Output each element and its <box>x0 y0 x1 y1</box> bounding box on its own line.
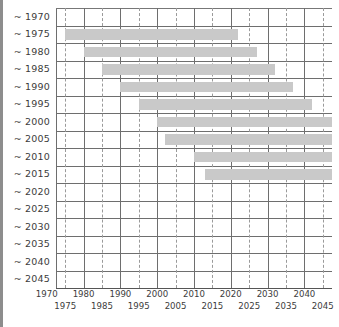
range-bar <box>139 99 312 110</box>
range-bar-chart: ~ 1970~ 1975~ 1980~ 1985~ 1990~ 1995~ 20… <box>0 0 339 327</box>
x-axis-labels: 1970198019902000201020202030204019751985… <box>0 288 339 327</box>
gridline-minor <box>65 8 66 288</box>
plot-area <box>56 8 332 288</box>
y-axis-tick-label: ~ 2005 <box>14 134 50 144</box>
x-axis-tick-label: 1970 <box>36 290 58 299</box>
y-axis-tick-label: ~ 2025 <box>14 204 50 214</box>
y-axis-tick-label: ~ 1985 <box>14 64 50 74</box>
y-axis-tick-label: ~ 2035 <box>14 239 50 249</box>
y-axis-tick-label: ~ 1975 <box>14 29 50 39</box>
x-axis-tick-label: 2005 <box>165 302 187 311</box>
range-bar <box>84 47 257 58</box>
x-axis-tick-label: 2030 <box>257 290 279 299</box>
range-bar <box>65 29 238 40</box>
gridline-major <box>268 8 269 288</box>
range-bar <box>120 82 293 93</box>
range-bar <box>102 64 275 75</box>
x-axis-tick-label: 2000 <box>146 290 168 299</box>
range-bar <box>205 169 332 180</box>
y-axis-tick-label: ~ 2045 <box>14 274 50 284</box>
x-axis-tick-label: 2025 <box>238 302 260 311</box>
x-axis-tick-label: 1985 <box>91 302 113 311</box>
gridline-minor <box>286 8 287 288</box>
y-axis-tick-label: ~ 2000 <box>14 117 50 127</box>
x-axis-tick-label: 1975 <box>54 302 76 311</box>
range-bar <box>157 117 332 128</box>
y-axis-tick-label: ~ 1990 <box>14 82 50 92</box>
y-axis-labels: ~ 1970~ 1975~ 1980~ 1985~ 1990~ 1995~ 20… <box>0 8 54 288</box>
y-axis-tick-label: ~ 2020 <box>14 187 50 197</box>
gridline-major <box>304 8 305 288</box>
x-axis-tick-label: 2020 <box>220 290 242 299</box>
range-bar <box>165 134 332 145</box>
gridline-minor <box>323 8 324 288</box>
y-axis-tick-label: ~ 2015 <box>14 169 50 179</box>
x-axis-tick-label: 1990 <box>109 290 131 299</box>
x-axis-tick-label: 1995 <box>128 302 150 311</box>
x-axis-tick-label: 2035 <box>275 302 297 311</box>
x-axis-tick-label: 2040 <box>293 290 315 299</box>
range-bar <box>194 152 332 163</box>
y-axis-tick-label: ~ 1995 <box>14 99 50 109</box>
y-axis-tick-label: ~ 1970 <box>14 12 50 22</box>
x-axis-tick-label: 1980 <box>73 290 95 299</box>
y-axis-tick-label: ~ 2010 <box>14 152 50 162</box>
x-axis-tick-label: 2010 <box>183 290 205 299</box>
y-axis-tick-label: ~ 1980 <box>14 47 50 57</box>
x-axis-tick-label: 2045 <box>312 302 334 311</box>
y-axis-tick-label: ~ 2040 <box>14 257 50 267</box>
x-axis-tick-label: 2015 <box>201 302 223 311</box>
y-axis-tick-label: ~ 2030 <box>14 222 50 232</box>
